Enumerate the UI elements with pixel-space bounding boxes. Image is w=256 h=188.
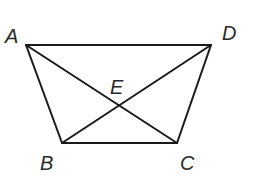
- intersection-label-E: E: [110, 76, 124, 98]
- vertex-label-B: B: [40, 152, 53, 174]
- vertex-label-A: A: [4, 25, 18, 47]
- diagonal-BD: [62, 45, 211, 143]
- vertex-label-C: C: [180, 152, 195, 174]
- trapezoid-diagram: A D B C E: [0, 0, 256, 188]
- diagonal-AC: [26, 45, 177, 143]
- segment-AB: [26, 45, 62, 143]
- vertex-label-D: D: [222, 22, 236, 44]
- segment-CD: [177, 45, 211, 143]
